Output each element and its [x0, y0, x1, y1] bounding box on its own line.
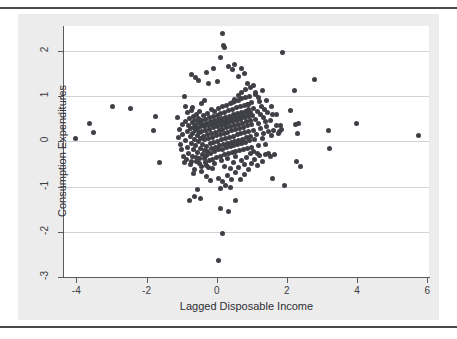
data-point — [192, 194, 197, 199]
data-point — [110, 104, 115, 109]
data-point — [191, 171, 196, 176]
data-point — [294, 159, 299, 164]
scatter-plot-panel — [64, 26, 429, 277]
data-point — [263, 142, 268, 147]
data-point — [327, 146, 332, 151]
x-tick-label-1: -2 — [132, 285, 162, 296]
x-tick-0 — [76, 278, 77, 283]
data-point — [254, 132, 259, 137]
x-axis-label: Lagged Disposable Income — [64, 300, 429, 312]
data-point — [212, 161, 217, 166]
y-axis-label: Consumption Expenditures — [56, 26, 68, 276]
data-point — [202, 156, 207, 161]
data-point — [263, 152, 268, 157]
x-tick-label-2: 0 — [202, 285, 232, 296]
x-tick-1 — [147, 278, 148, 283]
top-rule — [0, 7, 457, 9]
data-point — [179, 147, 184, 152]
data-point — [264, 98, 269, 103]
data-point — [219, 158, 224, 163]
data-point — [228, 166, 233, 171]
data-point — [230, 67, 235, 72]
data-point — [326, 128, 331, 133]
data-point — [215, 79, 220, 84]
gridline-y-4 — [64, 232, 429, 233]
data-point — [247, 94, 252, 99]
data-point — [252, 157, 257, 162]
data-point — [204, 70, 209, 75]
data-point — [280, 50, 285, 55]
data-point — [233, 170, 238, 175]
data-point — [260, 88, 265, 93]
data-point — [236, 165, 241, 170]
data-point — [292, 88, 297, 93]
data-point — [246, 167, 251, 172]
data-point — [232, 62, 237, 67]
data-point — [199, 169, 204, 174]
y-tick-label-1: 1 — [39, 85, 50, 105]
data-point — [295, 131, 300, 136]
data-point — [220, 231, 225, 236]
y-tick-label-2: 0 — [39, 130, 50, 150]
data-point — [239, 66, 244, 71]
data-point — [229, 177, 234, 182]
data-point — [270, 176, 275, 181]
data-point — [183, 104, 188, 109]
x-tick-4 — [357, 278, 358, 283]
data-point — [274, 112, 279, 117]
data-point — [182, 94, 187, 99]
data-point — [260, 159, 265, 164]
data-point — [256, 121, 261, 126]
x-tick-label-3: 2 — [272, 285, 302, 296]
x-tick-5 — [427, 278, 428, 283]
data-point — [260, 136, 265, 141]
x-tick-label-0: -4 — [61, 285, 91, 296]
data-point — [216, 258, 221, 263]
data-point — [244, 155, 249, 160]
data-point — [296, 121, 301, 126]
data-point — [198, 196, 203, 201]
data-point — [354, 121, 359, 126]
data-point — [196, 78, 201, 83]
data-point — [249, 122, 254, 127]
y-tick-5 — [58, 277, 63, 278]
data-point — [208, 178, 213, 183]
y-tick-label-5: -3 — [39, 266, 50, 286]
data-point — [282, 183, 287, 188]
data-point — [222, 164, 227, 169]
x-tick-label-4: 4 — [342, 285, 372, 296]
data-point — [242, 172, 247, 177]
data-point — [416, 133, 421, 138]
x-tick-label-5: 6 — [412, 285, 442, 296]
data-point — [228, 185, 233, 190]
data-point — [211, 66, 216, 71]
data-point — [206, 81, 211, 86]
data-point — [218, 206, 223, 211]
data-point — [207, 158, 212, 163]
data-point — [178, 142, 183, 147]
data-point — [251, 83, 256, 88]
x-tick-3 — [287, 278, 288, 283]
data-point — [298, 164, 303, 169]
y-tick-label-4: -2 — [39, 220, 50, 240]
data-point — [243, 87, 248, 92]
data-point — [242, 71, 247, 76]
data-point — [233, 198, 238, 203]
data-point — [182, 160, 187, 165]
figure-container: -4-20246 210-1-2-3 Lagged Disposable Inc… — [0, 0, 457, 339]
data-point — [255, 163, 260, 168]
data-point — [202, 98, 207, 103]
data-point — [268, 118, 273, 123]
data-point — [231, 160, 236, 165]
x-axis-line — [63, 277, 430, 278]
data-point — [189, 159, 194, 164]
data-point — [272, 152, 277, 157]
data-point — [157, 160, 162, 165]
x-tick-2 — [217, 278, 218, 283]
data-point — [238, 177, 243, 182]
bottom-rule — [0, 326, 457, 328]
data-point — [210, 166, 215, 171]
data-point — [230, 100, 235, 105]
data-point — [218, 55, 223, 60]
data-point — [269, 104, 274, 109]
